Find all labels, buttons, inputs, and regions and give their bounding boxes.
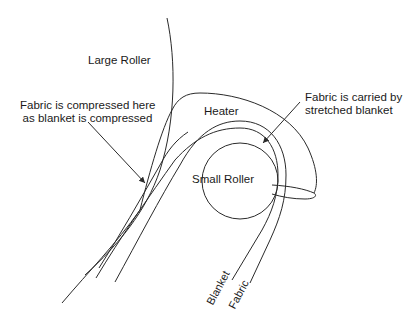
- carried-callout-line2: stretched blanket: [305, 104, 402, 117]
- carried-callout-label: Fabric is carried by stretched blanket: [305, 91, 402, 117]
- compressed-callout-label: Fabric is compressed here as blanket is …: [20, 99, 155, 125]
- blanket-extension: [62, 210, 140, 303]
- small-roller-label: Small Roller: [192, 173, 254, 186]
- compressed-callout-line2: as blanket is compressed: [20, 112, 155, 125]
- carried-callout-line1: Fabric is carried by: [305, 91, 402, 104]
- heater-tail-loop: [272, 185, 316, 199]
- carried-callout-arrow: [263, 102, 300, 143]
- diagram-artwork: [0, 0, 411, 329]
- large-roller-label: Large Roller: [88, 54, 151, 67]
- compressed-callout-line1: Fabric is compressed here: [20, 99, 155, 112]
- fabric-path: [115, 121, 286, 283]
- heater-label: Heater: [204, 105, 239, 118]
- compressed-callout-arrow: [88, 122, 145, 183]
- diagram-canvas: Large Roller Fabric is compressed here a…: [0, 0, 411, 329]
- blanket-path: [96, 128, 278, 280]
